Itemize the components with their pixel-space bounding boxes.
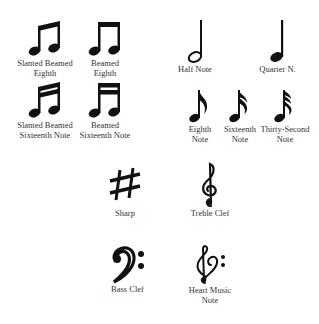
treble-clef-icon	[195, 162, 225, 208]
label: Thirty-Second Note	[260, 124, 309, 144]
symbol-slanted-beamed-sixteenth: Slanted Beamed Sixteenth Note	[10, 80, 80, 140]
slanted-beamed-eighth-icon	[25, 18, 65, 58]
label: Beamed Sixteenth Note	[80, 120, 131, 140]
heart-music-note-icon	[190, 243, 230, 285]
label: Slanted Beamed Sixteenth Note	[17, 120, 72, 140]
label: Quarter N.	[259, 64, 295, 74]
symbol-heart-music-note: Heart Music Note	[175, 243, 245, 305]
beamed-eighth-icon	[85, 18, 125, 58]
label: Half Note	[178, 64, 212, 74]
eighth-note-icon	[187, 88, 213, 124]
label: Heart Music Note	[189, 285, 231, 305]
symbol-treble-clef: Treble Clef	[180, 162, 240, 218]
symbol-bass-clef: Bass Clef	[100, 244, 155, 294]
half-note-icon	[180, 18, 210, 64]
thirty-second-note-icon	[272, 88, 298, 124]
symbol-beamed-eighth: Beamed Eighth	[75, 18, 135, 78]
symbol-thirty-second-note: Thirty-Second Note	[255, 88, 315, 144]
symbol-half-note: Half Note	[170, 18, 220, 74]
label: Slanted Beamed Eighth	[17, 58, 72, 78]
label: Treble Clef	[191, 208, 230, 218]
label: Sixteenth Note	[224, 124, 256, 144]
symbol-eighth-note: Eighth Note	[180, 88, 220, 144]
symbol-beamed-sixteenth: Beamed Sixteenth Note	[75, 80, 135, 140]
sharp-icon	[107, 166, 143, 202]
symbol-quarter-note: Quarter N.	[250, 18, 305, 74]
sixteenth-note-icon	[227, 88, 253, 124]
label: Eighth Note	[189, 124, 212, 144]
symbol-sharp: Sharp	[100, 166, 150, 218]
label: Bass Clef	[111, 284, 144, 294]
label: Sharp	[115, 208, 135, 218]
bass-clef-icon	[108, 244, 148, 284]
quarter-note-icon	[263, 18, 293, 64]
label: Beamed Eighth	[91, 58, 119, 78]
beamed-sixteenth-icon	[85, 80, 125, 120]
slanted-beamed-sixteenth-icon	[25, 80, 65, 120]
symbol-slanted-beamed-eighth: Slanted Beamed Eighth	[10, 18, 80, 78]
